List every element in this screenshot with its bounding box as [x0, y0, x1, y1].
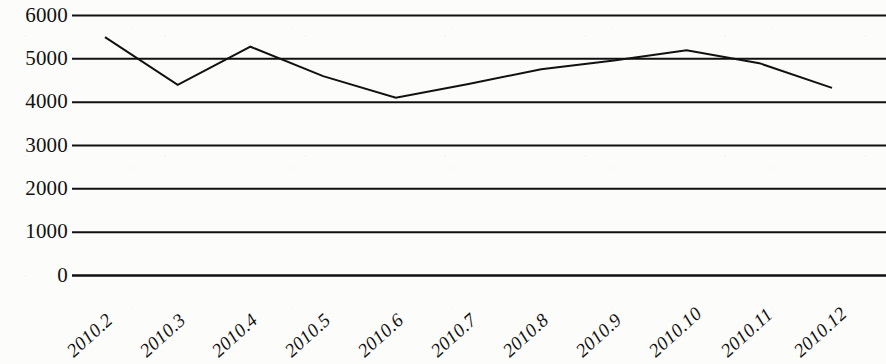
data-series-group — [105, 37, 832, 98]
x-axis-tick-label: 2010.4 — [208, 310, 261, 360]
x-axis-tick-label: 2010.2 — [63, 310, 116, 360]
x-axis-tick-label: 2010.3 — [136, 310, 189, 360]
x-axis-tick-label: 2010.9 — [572, 310, 625, 360]
x-axis-tick-label: 2010.12 — [790, 303, 850, 360]
y-axis-tick-label: 6000 — [6, 5, 68, 26]
line-chart: 0100020003000400050006000 2010.22010.320… — [0, 0, 886, 364]
y-axis-tick-labels: 0100020003000400050006000 — [0, 0, 68, 300]
plot-area — [72, 0, 886, 300]
x-axis-tick-labels: 2010.22010.32010.42010.52010.62010.72010… — [0, 284, 886, 364]
y-axis-tick-label: 5000 — [6, 48, 68, 69]
x-axis-tick-label: 2010.5 — [281, 310, 334, 360]
x-axis-tick-label: 2010.7 — [427, 310, 480, 360]
gridlines-group — [72, 16, 886, 276]
x-axis-tick-label: 2010.10 — [645, 303, 705, 360]
y-axis-tick-label: 2000 — [6, 178, 68, 199]
y-axis-tick-label: 0 — [6, 265, 68, 286]
y-axis-tick-label: 3000 — [6, 135, 68, 156]
y-axis-tick-label: 1000 — [6, 221, 68, 242]
plot-svg — [72, 0, 886, 300]
chart-screenshot: 0100020003000400050006000 2010.22010.320… — [0, 0, 886, 364]
x-axis-tick-label: 2010.11 — [717, 304, 776, 360]
data-line — [105, 37, 832, 98]
y-axis-tick-label: 4000 — [6, 91, 68, 112]
x-axis-tick-label: 2010.8 — [499, 310, 552, 360]
x-axis-tick-label: 2010.6 — [354, 310, 407, 360]
